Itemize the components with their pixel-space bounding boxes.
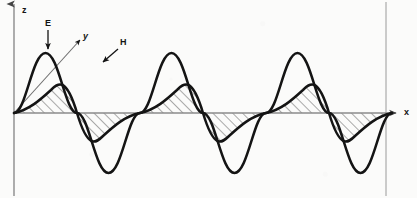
e-field-label: E <box>45 19 51 28</box>
z-axis-label: z <box>22 6 27 15</box>
h-field-label: H <box>120 38 127 47</box>
y-axis-label: y <box>83 32 88 41</box>
em-wave-figure <box>0 0 417 198</box>
x-axis-label: x <box>404 108 409 117</box>
